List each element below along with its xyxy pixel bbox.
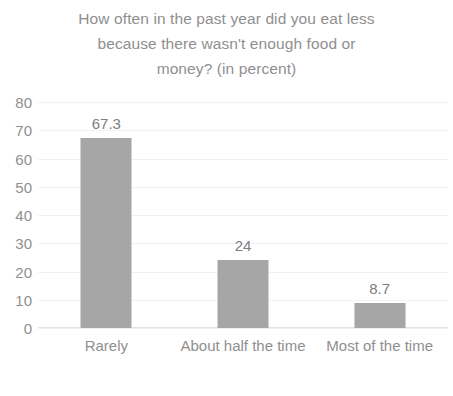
bars-layer: 67.3248.7	[38, 102, 448, 328]
bar-group[interactable]: 67.3	[38, 102, 175, 328]
bar-group[interactable]: 24	[175, 102, 312, 328]
chart-title: How often in the past year did you eat l…	[0, 6, 453, 81]
gridline	[38, 328, 448, 329]
x-tick-label: About half the time	[175, 334, 312, 358]
y-tick-label: 30	[0, 236, 32, 251]
y-axis: 80706050403020100	[0, 102, 32, 328]
y-tick-label: 50	[0, 179, 32, 194]
y-tick-label: 0	[0, 321, 32, 336]
bar-group[interactable]: 8.7	[311, 102, 448, 328]
y-tick-label: 20	[0, 264, 32, 279]
y-tick-label: 80	[0, 95, 32, 110]
bar-value-label: 8.7	[369, 281, 390, 296]
y-tick-label: 60	[0, 151, 32, 166]
y-tick-label: 40	[0, 208, 32, 223]
y-tick-label: 70	[0, 123, 32, 138]
x-axis: RarelyAbout half the timeMost of the tim…	[38, 334, 448, 392]
bar-chart-figure: How often in the past year did you eat l…	[0, 0, 453, 396]
x-tick-label: Rarely	[38, 334, 175, 358]
bar-value-label: 24	[235, 238, 252, 253]
x-tick-label: Most of the time	[311, 334, 448, 358]
bar[interactable]	[354, 303, 405, 328]
bar[interactable]	[217, 260, 268, 328]
bar-value-label: 67.3	[92, 116, 121, 131]
y-tick-label: 10	[0, 292, 32, 307]
bar[interactable]	[81, 138, 132, 328]
